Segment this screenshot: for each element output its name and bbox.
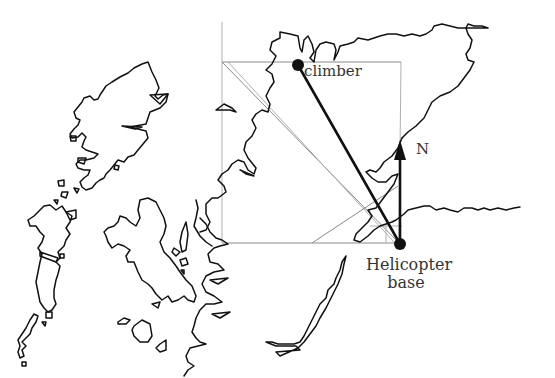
- coastline-caithness: [402, 24, 488, 138]
- climber-label: climber: [304, 63, 362, 80]
- climber-point-icon: [292, 59, 304, 71]
- coastline-firth: [354, 138, 520, 242]
- coastline-raasay: [180, 222, 188, 252]
- helicopter-base-label: Helicopter base: [366, 256, 446, 291]
- coastline-small-isles: [118, 318, 130, 324]
- map-diagram: climber N Helicopter base: [0, 0, 555, 378]
- north-label: N: [416, 141, 429, 158]
- coastline-loch-ness: [266, 256, 346, 356]
- map-canvas: [0, 0, 555, 378]
- coastline-uists: [28, 205, 72, 312]
- coastline-barra: [18, 314, 38, 358]
- helicopter-base-label-line1: Helicopter: [366, 256, 446, 274]
- helicopter-base-point-icon: [394, 238, 406, 250]
- helicopter-base-label-line2: base: [366, 274, 446, 292]
- coastline-lewis-harris: [70, 62, 168, 190]
- north-arrow: [394, 140, 406, 244]
